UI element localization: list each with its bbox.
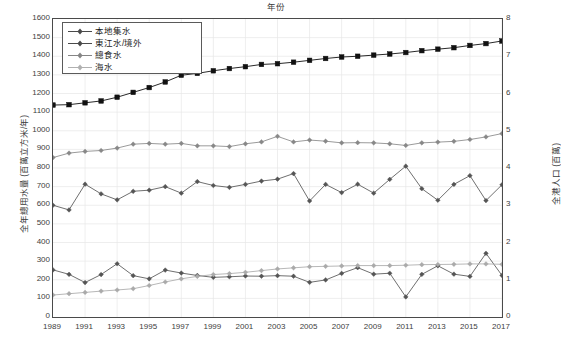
x-tick: 2003 [260, 322, 294, 331]
y-tick-left: 200 [18, 274, 50, 283]
y-tick-left: 800 [18, 162, 50, 171]
legend-label: 本地集水 [93, 26, 131, 37]
y-tick-right: 5 [506, 125, 536, 134]
y-tick-right: 4 [506, 162, 536, 171]
chart-legend: 本地集水東江水/境外總食水海水 [62, 22, 202, 74]
y-tick-right: 2 [506, 237, 536, 246]
x-tick: 1991 [67, 322, 101, 331]
x-tick: 1989 [35, 322, 69, 331]
y-tick-left: 0 [18, 311, 50, 320]
y-tick-left: 600 [18, 199, 50, 208]
legend-marker-icon [67, 38, 93, 49]
y-tick-left: 700 [18, 181, 50, 190]
legend-item-4[interactable]: 海水 [67, 62, 197, 73]
x-tick: 1995 [131, 322, 165, 331]
y-tick-right: 6 [506, 88, 536, 97]
x-axis-ticks: 1989199119931995199719992001200320052007… [0, 322, 552, 342]
x-tick: 2009 [356, 322, 390, 331]
legend-item-1[interactable]: 本地集水 [67, 26, 197, 37]
y-tick-right: 7 [506, 50, 536, 59]
x-tick: 2013 [420, 322, 454, 331]
legend-marker-icon [67, 50, 93, 61]
x-tick: 1999 [195, 322, 229, 331]
x-tick: 2017 [484, 322, 518, 331]
y-tick-left: 1400 [18, 50, 50, 59]
y-tick-left: 1000 [18, 125, 50, 134]
y-tick-left: 1200 [18, 88, 50, 97]
y-axis-right-ticks: 012345678 [506, 0, 540, 364]
y-tick-left: 1600 [18, 13, 50, 22]
y-tick-left: 500 [18, 218, 50, 227]
x-tick: 1993 [99, 322, 133, 331]
y-axis-right-title: 全港人口 (百萬) [549, 89, 561, 259]
y-tick-right: 8 [506, 13, 536, 22]
x-tick: 2005 [292, 322, 326, 331]
y-tick-left: 300 [18, 255, 50, 264]
legend-label: 海水 [93, 62, 113, 73]
legend-item-3[interactable]: 總食水 [67, 50, 197, 61]
y-tick-left: 1300 [18, 69, 50, 78]
x-axis-title: 年份 [0, 0, 552, 12]
legend-marker-icon [67, 26, 93, 37]
y-tick-left: 400 [18, 237, 50, 246]
legend-label: 東江水/境外 [93, 38, 142, 49]
y-tick-left: 100 [18, 292, 50, 301]
y-axis-left-ticks: 0100200300400500600700800900100011001200… [14, 0, 50, 364]
legend-item-2[interactable]: 東江水/境外 [67, 38, 197, 49]
y-tick-left: 1500 [18, 32, 50, 41]
y-tick-right: 0 [506, 311, 536, 320]
y-tick-right: 1 [506, 274, 536, 283]
y-tick-left: 1100 [18, 106, 50, 115]
x-tick: 2011 [388, 322, 422, 331]
x-tick: 2015 [452, 322, 486, 331]
y-tick-left: 900 [18, 143, 50, 152]
x-tick: 1997 [163, 322, 197, 331]
y-tick-right: 3 [506, 199, 536, 208]
legend-label: 總食水 [93, 50, 122, 61]
x-tick: 2001 [227, 322, 261, 331]
legend-marker-icon [67, 62, 93, 73]
x-tick: 2007 [324, 322, 358, 331]
